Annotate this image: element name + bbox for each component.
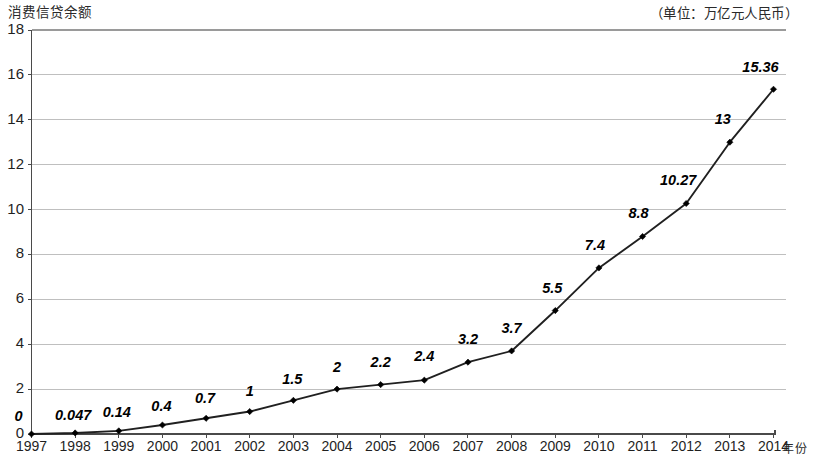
- data-point-label: 15.36: [734, 59, 788, 75]
- y-axis-tick-label: 4: [0, 334, 24, 351]
- data-point-label: 0: [0, 408, 46, 424]
- x-axis-tick-label: 2014: [752, 438, 796, 454]
- series-line: [32, 89, 774, 434]
- x-axis-tick-label: 2010: [577, 438, 621, 454]
- data-point-label: 5.5: [525, 280, 579, 296]
- x-axis-tick-label: 2009: [533, 438, 577, 454]
- data-point-label: 8.8: [612, 205, 666, 221]
- data-point-label: 3.7: [485, 320, 539, 336]
- x-axis-tick-label: 2008: [490, 438, 534, 454]
- plot-area: [0, 0, 822, 458]
- y-axis-tick-label: 10: [0, 200, 24, 217]
- x-axis-tick-label: 2004: [315, 438, 359, 454]
- consumer-credit-line-chart: 消费信贷余额 （单位：万亿元人民币） 年份 024681012141618 19…: [0, 0, 822, 458]
- data-point-label: 2.4: [397, 348, 451, 364]
- data-point-label: 7.4: [568, 237, 622, 253]
- x-axis-tick-label: 1999: [97, 438, 141, 454]
- data-point-label: 13: [696, 111, 750, 127]
- y-axis-tick-label: 6: [0, 289, 24, 306]
- x-axis-tick-label: 2002: [228, 438, 272, 454]
- x-axis-tick-label: 2005: [359, 438, 403, 454]
- x-axis-tick-label: 2013: [708, 438, 752, 454]
- y-axis-tick-label: 16: [0, 65, 24, 82]
- x-axis-tick-label: 2003: [271, 438, 315, 454]
- y-axis-tick-label: 8: [0, 244, 24, 261]
- series-markers: [28, 86, 776, 437]
- y-axis-tick-label: 2: [0, 379, 24, 396]
- y-axis-tick-label: 18: [0, 20, 24, 37]
- y-axis-tick-label: 12: [0, 155, 24, 172]
- x-axis-tick-label: 2006: [402, 438, 446, 454]
- x-axis-tick-label: 2001: [184, 438, 228, 454]
- x-axis-tick-label: 2011: [621, 438, 665, 454]
- x-axis-tick-label: 1998: [53, 438, 97, 454]
- gridlines: [32, 30, 786, 389]
- x-axis-tick-label: 2000: [140, 438, 184, 454]
- x-axis-tick-label: 1997: [10, 438, 54, 454]
- x-axis-tick-label: 2012: [664, 438, 708, 454]
- y-axis-tick-label: 14: [0, 110, 24, 127]
- axis-lines: [32, 30, 776, 434]
- data-point-label: 10.27: [651, 172, 705, 188]
- x-axis-tick-label: 2007: [446, 438, 490, 454]
